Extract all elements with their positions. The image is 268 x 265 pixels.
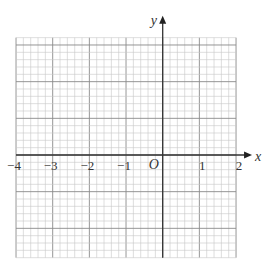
axes: [16, 16, 252, 258]
x-axis-label: x: [254, 149, 262, 164]
y-axis-arrow-icon: [159, 16, 166, 24]
x-tick-label: 2: [236, 158, 243, 173]
x-tick-label: −3: [44, 158, 58, 173]
x-tick-label: 1: [199, 158, 206, 173]
y-axis-label: y: [149, 13, 158, 28]
grid-lines: [16, 38, 236, 258]
origin-label: O: [149, 157, 159, 172]
x-tick-label: −1: [117, 158, 131, 173]
x-tick-labels: −4−3−2−112: [7, 158, 242, 173]
coordinate-grid: −4−3−2−112 x y O: [0, 0, 268, 265]
x-axis-arrow-icon: [244, 152, 252, 159]
x-tick-label: −4: [7, 158, 21, 173]
x-tick-label: −2: [80, 158, 94, 173]
